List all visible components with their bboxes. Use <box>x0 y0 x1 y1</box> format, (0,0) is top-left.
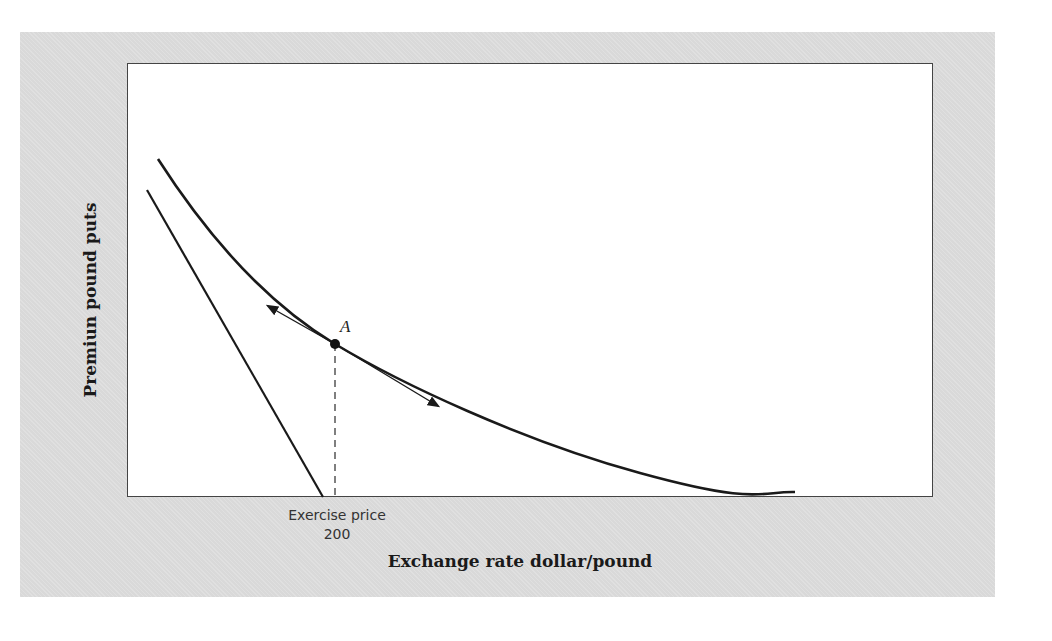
exercise-price-text: Exercise price <box>288 506 386 525</box>
tangent-arrow-line <box>268 306 335 344</box>
x-axis-label: Exchange rate dollar/pound <box>388 551 653 571</box>
tangent-arrow-line <box>335 344 438 406</box>
point-a-label: A <box>340 317 350 337</box>
y-axis-label: Premiun pound puts <box>80 202 100 397</box>
point-a-marker <box>330 339 340 349</box>
intrinsic-value-line <box>147 190 323 497</box>
premium-curve <box>158 159 795 495</box>
exercise-price-tick-label: Exercise price 200 <box>288 506 386 544</box>
chart-lines <box>0 0 1052 641</box>
exercise-price-value: 200 <box>288 525 386 544</box>
